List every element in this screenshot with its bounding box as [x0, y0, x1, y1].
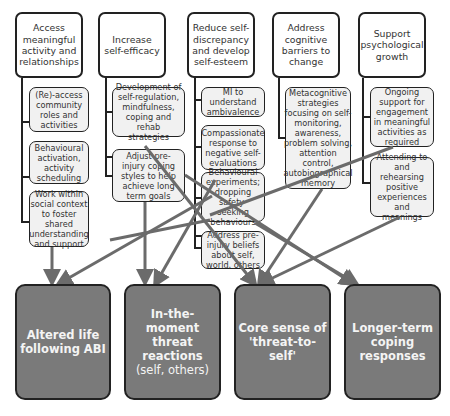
- outcome-label: Longer-term coping responses: [346, 321, 439, 363]
- outcome-label: Core sense of 'threat-to-self': [236, 321, 329, 363]
- outcome-threat-reactions: In-the-moment threat reactions(self, oth…: [124, 284, 221, 400]
- outcome-label: Altered life following ABI: [17, 328, 109, 356]
- outcome-altered-life: Altered life following ABI: [15, 284, 111, 400]
- outcome-sublabel: (self, others): [136, 363, 209, 377]
- outcome-longer-term-coping: Longer-term coping responses: [344, 284, 441, 400]
- outcome-label: In-the-moment threat reactions: [126, 307, 219, 363]
- outcome-core-threat-to-self: Core sense of 'threat-to-self': [234, 284, 331, 400]
